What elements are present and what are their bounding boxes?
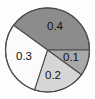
pie-slice-label-0-3: 0.3: [16, 50, 32, 62]
pie-slice-label-0-2: 0.2: [45, 69, 61, 81]
pie-slice-label-0-1: 0.1: [63, 51, 79, 63]
pie-chart-figure: 0.4 0.1 0.2 0.3: [0, 0, 95, 99]
pie-chart-svg: 0.4 0.1 0.2 0.3: [0, 0, 95, 99]
pie-slice-label-0-4: 0.4: [47, 20, 64, 32]
